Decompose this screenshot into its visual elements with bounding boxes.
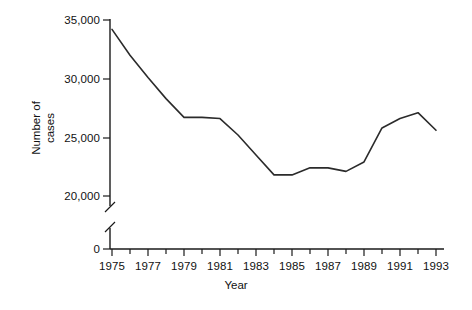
line-chart: 35,000 30,000 25,000 20,000 0 1975 1977 … bbox=[0, 0, 472, 310]
x-axis-title: Year bbox=[0, 279, 472, 291]
x-tick-label-1993: 1993 bbox=[423, 260, 449, 272]
y-axis-title-line2: cases bbox=[43, 83, 57, 173]
data-series-line bbox=[112, 29, 436, 174]
x-tick-label-1975: 1975 bbox=[99, 260, 125, 272]
y-axis-title-line1: Number of bbox=[29, 83, 43, 173]
y-tick-label-35000: 35,000 bbox=[38, 14, 100, 26]
x-tick-label-1991: 1991 bbox=[387, 260, 413, 272]
y-axis-break-mark bbox=[105, 202, 115, 232]
x-tick-label-1981: 1981 bbox=[207, 260, 233, 272]
y-axis-title: Number of cases bbox=[29, 83, 57, 173]
x-tick-label-1979: 1979 bbox=[171, 260, 197, 272]
x-tick-label-1985: 1985 bbox=[279, 260, 305, 272]
x-tick-label-1977: 1977 bbox=[135, 260, 161, 272]
x-tick-label-1989: 1989 bbox=[351, 260, 377, 272]
x-tick-label-1983: 1983 bbox=[243, 260, 269, 272]
x-tick-label-1987: 1987 bbox=[315, 260, 341, 272]
y-tick-label-20000: 20,000 bbox=[38, 190, 100, 202]
y-axis-group bbox=[103, 19, 115, 249]
y-tick-label-0: 0 bbox=[38, 243, 100, 255]
x-axis-group bbox=[110, 249, 444, 256]
